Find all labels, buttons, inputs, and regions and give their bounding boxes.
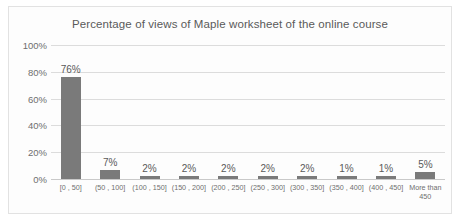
bar-value-label: 1%	[366, 163, 405, 174]
bar-slot: 2%	[248, 45, 287, 179]
x-axis-category-label: (50 , 100]	[90, 181, 129, 213]
bar[interactable]	[179, 176, 199, 179]
bar-slot: 2%	[209, 45, 248, 179]
x-axis-category-label: [0 , 50]	[51, 181, 90, 213]
bar-value-label: 5%	[406, 159, 445, 170]
bar-slot: 2%	[169, 45, 208, 179]
x-axis-category-label: More than 450	[406, 181, 445, 213]
bar-slot: 5%	[406, 45, 445, 179]
x-axis-category-label: (250 , 300]	[248, 181, 287, 213]
x-axis: [0 , 50](50 , 100](100 , 150](150 , 200]…	[51, 181, 445, 213]
bar[interactable]	[337, 176, 357, 179]
y-axis-tick-label: 40%	[11, 120, 47, 131]
bar[interactable]	[61, 77, 81, 179]
x-axis-category-label: (100 , 150]	[130, 181, 169, 213]
bar-value-label: 76%	[51, 64, 90, 75]
bar-value-label: 2%	[169, 163, 208, 174]
bar-value-label: 2%	[287, 163, 326, 174]
bar-value-label: 1%	[327, 163, 366, 174]
y-axis-tick-label: 0%	[11, 174, 47, 185]
bar[interactable]	[297, 176, 317, 179]
plot-area: 76%7%2%2%2%2%2%1%1%5%	[51, 45, 445, 179]
bar-slot: 1%	[366, 45, 405, 179]
y-axis-tick-label: 80%	[11, 66, 47, 77]
x-axis-category-label: (200 , 250]	[209, 181, 248, 213]
y-axis-tick-label: 20%	[11, 147, 47, 158]
x-axis-category-label: (400 , 450]	[366, 181, 405, 213]
y-axis: 100%80%60%40%20%0%	[11, 45, 47, 179]
bar-series: 76%7%2%2%2%2%2%1%1%5%	[51, 45, 445, 179]
bar-value-label: 2%	[209, 163, 248, 174]
bar-slot: 76%	[51, 45, 90, 179]
bar-value-label: 7%	[90, 157, 129, 168]
bar[interactable]	[415, 172, 435, 179]
y-axis-tick-label: 60%	[11, 93, 47, 104]
bar[interactable]	[140, 176, 160, 179]
x-axis-category-label: (300 , 350]	[287, 181, 326, 213]
bar[interactable]	[218, 176, 238, 179]
plot-wrapper: 100%80%60%40%20%0% 76%7%2%2%2%2%2%1%1%5%…	[9, 7, 451, 213]
bar-slot: 7%	[90, 45, 129, 179]
bar[interactable]	[258, 176, 278, 179]
bar[interactable]	[100, 170, 120, 179]
axis-baseline	[51, 179, 445, 180]
x-axis-category-label: (350 , 400]	[327, 181, 366, 213]
bar-value-label: 2%	[248, 163, 287, 174]
bar-value-label: 2%	[130, 163, 169, 174]
bar-slot: 2%	[130, 45, 169, 179]
y-axis-tick-label: 100%	[11, 40, 47, 51]
bar-slot: 2%	[287, 45, 326, 179]
bar-slot: 1%	[327, 45, 366, 179]
chart-card: Percentage of views of Maple worksheet o…	[8, 6, 452, 214]
bar[interactable]	[376, 176, 396, 179]
x-axis-category-label: (150 , 200]	[169, 181, 208, 213]
